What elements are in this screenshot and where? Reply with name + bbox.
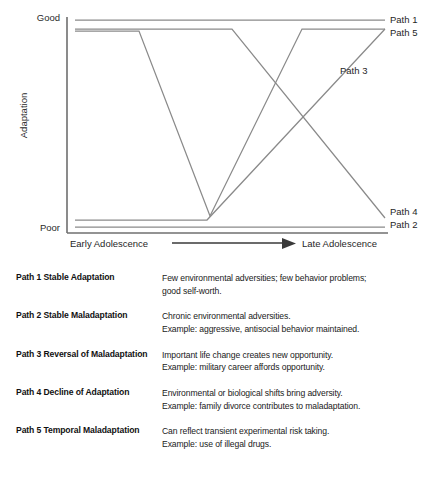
chart-canvas <box>0 0 437 262</box>
y-axis-tick-good: Good <box>18 12 60 23</box>
path-description: Few environmental adversities; few behav… <box>162 272 437 298</box>
path-description-line: Chronic environmental adversities. <box>162 310 437 323</box>
path-description-line: Example: aggressive, antisocial behavior… <box>162 323 437 336</box>
series-label-path4: Path 4 <box>390 206 417 217</box>
series-label-path3: Path 3 <box>340 65 367 76</box>
series-label-path1: Path 1 <box>390 14 417 25</box>
path-description-line: Can reflect transient experimental risk … <box>162 425 437 438</box>
table-row: Path 3 Reversal of Maladaptation Importa… <box>0 349 437 375</box>
series-line-path4 <box>75 29 385 218</box>
path-description-line: Example: use of illegal drugs. <box>162 438 437 451</box>
y-axis-tick-poor: Poor <box>18 222 60 233</box>
table-row: Path 4 Decline of Adaptation Environment… <box>0 387 437 413</box>
path-description: Environmental or biological shifts bring… <box>162 387 437 413</box>
path-name: Path 4 Decline of Adaptation <box>0 387 162 398</box>
table-row: Path 1 Stable Adaptation Few environment… <box>0 272 437 298</box>
y-axis-title: Adaptation <box>18 76 29 156</box>
series-line-path5 <box>75 29 385 216</box>
path-description-line: good self-worth. <box>162 285 437 298</box>
path-description: Chronic environmental adversities. Examp… <box>162 310 437 336</box>
adaptation-pathways-chart: Good Poor Adaptation Early Adolescence L… <box>0 0 437 262</box>
series-label-path5: Path 5 <box>390 27 417 38</box>
series-line-path3 <box>75 29 385 220</box>
path-description: Important life change creates new opport… <box>162 349 437 375</box>
table-row: Path 5 Temporal Maladaptation Can reflec… <box>0 425 437 451</box>
table-row: Path 2 Stable Maladaptation Chronic envi… <box>0 310 437 336</box>
path-description-line: Few environmental adversities; few behav… <box>162 272 437 285</box>
x-axis-arrow-head <box>282 238 296 249</box>
path-description-line: Important life change creates new opport… <box>162 349 437 362</box>
path-description: Can reflect transient experimental risk … <box>162 425 437 451</box>
path-name: Path 3 Reversal of Maladaptation <box>0 349 162 360</box>
path-description-line: Environmental or biological shifts bring… <box>162 387 437 400</box>
path-description-line: Example: military career affords opportu… <box>162 361 437 374</box>
path-name: Path 2 Stable Maladaptation <box>0 310 162 321</box>
path-name: Path 1 Stable Adaptation <box>0 272 162 283</box>
series-label-path2: Path 2 <box>390 219 417 230</box>
path-descriptions-table: Path 1 Stable Adaptation Few environment… <box>0 272 437 463</box>
x-axis-label-early: Early Adolescence <box>70 238 148 249</box>
path-description-line: Example: family divorce contributes to m… <box>162 400 437 413</box>
x-axis-label-late: Late Adolescence <box>302 238 377 249</box>
path-name: Path 5 Temporal Maladaptation <box>0 425 162 436</box>
